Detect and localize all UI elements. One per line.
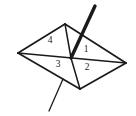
region-label-1: 1: [84, 44, 89, 54]
region-label-4: 4: [48, 35, 53, 45]
region-label-2: 2: [85, 62, 90, 72]
geometry-figure-container: 4 1 3 2: [0, 0, 136, 116]
region-label-3: 3: [56, 59, 61, 69]
geometry-diagram-svg: 4 1 3 2: [0, 0, 136, 116]
